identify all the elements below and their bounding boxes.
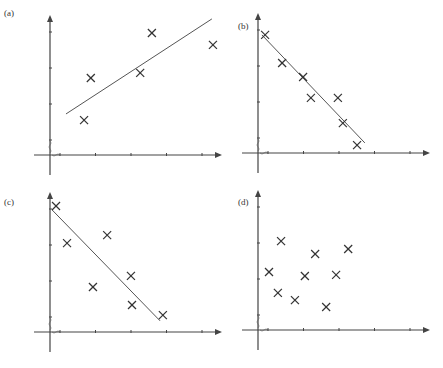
data-point-x-marker-icon [322,303,330,311]
data-point-x-marker-icon [311,250,319,258]
x-axis-arrow-icon [423,327,430,333]
panel-a: (a) [4,8,222,175]
panel-d: (d) [238,190,430,350]
data-point-x-marker-icon [159,311,167,319]
data-point-x-marker-icon [274,289,282,297]
data-point-x-marker-icon [265,268,273,276]
data-point-x-marker-icon [301,272,309,280]
scatter-plot-grid: (a) (b) (c) (d) [0,0,443,368]
data-point-x-marker-icon [307,94,315,102]
panel-c: (c) [4,192,222,352]
data-point-x-marker-icon [136,69,144,77]
panel-label: (c) [4,197,14,207]
data-point-x-marker-icon [334,94,342,102]
data-point-x-marker-icon [52,202,60,210]
data-point-x-marker-icon [299,73,307,81]
x-axis-arrow-icon [423,150,430,156]
data-point-x-marker-icon [209,41,217,49]
data-point-x-marker-icon [87,74,95,82]
data-point-x-marker-icon [332,271,340,279]
y-axis-arrow-icon [255,190,261,197]
x-axis-arrow-icon [215,329,222,335]
y-axis-arrow-icon [47,15,53,22]
data-point-x-marker-icon [128,301,136,309]
regression-line [262,35,365,143]
data-point-x-marker-icon [127,272,135,280]
panel-label: (a) [4,8,14,18]
regression-line [52,210,160,321]
data-point-x-marker-icon [80,116,88,124]
data-point-x-marker-icon [291,296,299,304]
data-point-x-marker-icon [353,141,361,149]
data-point-x-marker-icon [89,283,97,291]
panel-label: (b) [238,21,249,31]
panel-label: (d) [238,197,249,207]
data-point-x-marker-icon [278,59,286,67]
y-axis-arrow-icon [47,192,53,199]
data-point-x-marker-icon [148,29,156,37]
data-point-x-marker-icon [344,245,352,253]
data-point-x-marker-icon [277,237,285,245]
x-axis-arrow-icon [215,152,222,158]
regression-line [66,19,212,114]
panel-b: (b) [238,13,430,173]
data-point-x-marker-icon [103,231,111,239]
data-point-x-marker-icon [63,239,71,247]
y-axis-arrow-icon [255,13,261,20]
